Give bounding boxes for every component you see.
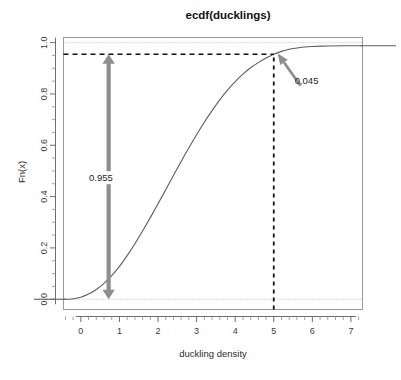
- lower-tail-arrow-head-down: [102, 290, 114, 300]
- x-tick-label: 7: [348, 326, 353, 336]
- y-tick-label: 0.0: [39, 293, 49, 306]
- x-axis-title: duckling density: [179, 348, 247, 359]
- y-axis: 0.00.20.40.60.81.0: [39, 36, 56, 305]
- upper-tail-label: 0.045: [295, 75, 319, 86]
- y-axis-title: Fn(x): [16, 161, 27, 183]
- chart-canvas: ecdf(ducklings) 01234567 0.00.20.40.60.8…: [0, 0, 401, 380]
- x-tick-label: 1: [117, 326, 122, 336]
- y-tick-label: 0.4: [39, 190, 49, 203]
- lower-tail-arrow-head-up: [102, 54, 114, 64]
- chart-title: ecdf(ducklings): [186, 9, 271, 21]
- annotation-layer: [102, 53, 300, 299]
- x-tick-label: 4: [233, 326, 238, 336]
- x-tick-label: 5: [271, 326, 276, 336]
- y-tick-label: 0.8: [39, 88, 49, 101]
- y-tick-label: 0.6: [39, 139, 49, 152]
- x-axis: 01234567: [65, 317, 358, 336]
- x-tick-label: 6: [310, 326, 315, 336]
- x-tick-label: 3: [194, 326, 199, 336]
- x-tick-label: 0: [78, 326, 83, 336]
- lower-tail-label: 0.955: [89, 172, 113, 183]
- y-tick-label: 1.0: [39, 36, 49, 49]
- ecdf-chart-figure: ecdf(ducklings) 01234567 0.00.20.40.60.8…: [0, 0, 401, 380]
- x-tick-label: 2: [156, 326, 161, 336]
- y-tick-label: 0.2: [39, 242, 49, 255]
